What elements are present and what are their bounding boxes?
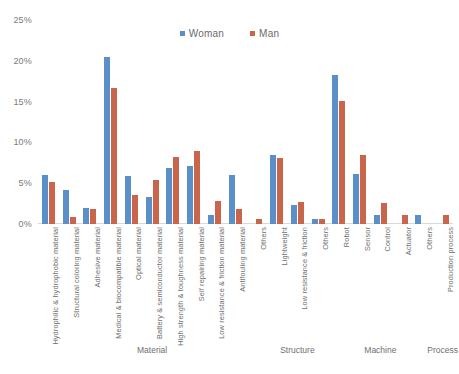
- x-axis-category-label: Self repairing material: [197, 227, 206, 301]
- bar-group: [349, 20, 370, 224]
- x-axis-category-label: Sensor: [363, 227, 372, 251]
- x-axis-group-label: Process: [427, 345, 458, 355]
- x-axis-category-label: Hydrophilic & hydrophobic material: [51, 227, 60, 345]
- bar-man[interactable]: [194, 151, 200, 224]
- x-axis-category-label: Others: [259, 227, 268, 250]
- x-axis-category-label: Medical & biocompatible material: [114, 227, 123, 339]
- plot-area: [38, 20, 453, 224]
- bar-man[interactable]: [277, 158, 283, 224]
- bar-man[interactable]: [173, 157, 179, 224]
- x-axis-category-labels: Hydrophilic & hydrophobic materialStruct…: [38, 227, 453, 339]
- plot-area-wrapper: [38, 20, 453, 224]
- x-axis-group-labels: MaterialStructureMachineProcess: [38, 345, 453, 361]
- x-axis-category-label: Others: [425, 227, 434, 250]
- bar-woman[interactable]: [415, 215, 421, 224]
- bar-man[interactable]: [132, 195, 138, 224]
- bar-woman[interactable]: [166, 168, 172, 224]
- bar-man[interactable]: [215, 201, 221, 224]
- bar-man[interactable]: [319, 219, 325, 224]
- x-axis-category-label: Structural coloring material: [72, 227, 81, 318]
- bar-group: [246, 20, 267, 224]
- x-axis-category-label: Production process: [446, 227, 455, 292]
- x-axis-category-label: Lightweight: [280, 227, 289, 266]
- bar-group: [225, 20, 246, 224]
- x-axis-category-label: Others: [321, 227, 330, 250]
- y-axis-tick-label: 15%: [13, 97, 32, 107]
- bar-group: [183, 20, 204, 224]
- x-axis-category-label: Robot: [342, 227, 351, 247]
- y-axis-tick-label: 10%: [13, 137, 32, 147]
- bar-group: [38, 20, 59, 224]
- bar-man[interactable]: [90, 209, 96, 224]
- bar-group: [370, 20, 391, 224]
- y-axis-tick-label: 5%: [19, 178, 32, 188]
- x-axis-group-label: Machine: [364, 345, 396, 355]
- bar-woman[interactable]: [332, 75, 338, 224]
- bar-man[interactable]: [236, 209, 242, 224]
- bar-group: [204, 20, 225, 224]
- bar-woman[interactable]: [208, 215, 214, 224]
- bar-group: [412, 20, 433, 224]
- bar-man[interactable]: [443, 215, 449, 224]
- bar-man[interactable]: [402, 215, 408, 224]
- bar-group: [287, 20, 308, 224]
- x-axis-category-label: Optical material: [134, 227, 143, 280]
- bar-woman[interactable]: [63, 190, 69, 224]
- bar-man[interactable]: [111, 88, 117, 224]
- x-axis-group-label: Material: [137, 345, 167, 355]
- bar-man[interactable]: [298, 202, 304, 224]
- bar-man[interactable]: [360, 155, 366, 224]
- x-axis-category-label: Battery & semiconductor material: [155, 227, 164, 339]
- x-axis-category-label: High strength & toughness material: [176, 227, 185, 346]
- bar-woman[interactable]: [312, 219, 318, 224]
- bar-group: [121, 20, 142, 224]
- bar-woman[interactable]: [229, 175, 235, 224]
- y-axis-tick-label: 20%: [13, 56, 32, 66]
- y-axis: 0%5%10%15%20%25%: [0, 20, 36, 224]
- bar-chart: WomanMan 0%5%10%15%20%25% Hydrophilic & …: [0, 0, 459, 374]
- bar-man[interactable]: [153, 180, 159, 224]
- bar-group: [266, 20, 287, 224]
- bar-man[interactable]: [339, 101, 345, 224]
- bar-group: [432, 20, 453, 224]
- x-axis-category-label: Adhesive material: [93, 227, 102, 287]
- x-axis-category-label: Low resistance & friction material: [217, 227, 226, 339]
- bar-group: [391, 20, 412, 224]
- x-axis-category-label: Antifouling material: [238, 227, 247, 292]
- bar-group: [142, 20, 163, 224]
- bar-woman[interactable]: [270, 155, 276, 224]
- bar-woman[interactable]: [187, 166, 193, 224]
- bar-woman[interactable]: [374, 215, 380, 224]
- x-axis-category-label: Low resistance & friction: [300, 227, 309, 310]
- bar-group: [59, 20, 80, 224]
- y-axis-tick-label: 0%: [19, 219, 32, 229]
- bar-woman[interactable]: [125, 176, 131, 224]
- bar-group: [329, 20, 350, 224]
- x-axis-category-label: Actuator: [404, 227, 413, 255]
- bar-group: [80, 20, 101, 224]
- bar-man[interactable]: [256, 219, 262, 224]
- bar-woman[interactable]: [42, 175, 48, 224]
- bar-group: [163, 20, 184, 224]
- x-axis-category-label: Control: [383, 227, 392, 252]
- bar-group: [100, 20, 121, 224]
- bar-group: [308, 20, 329, 224]
- bar-woman[interactable]: [104, 57, 110, 224]
- bar-man[interactable]: [70, 217, 76, 224]
- bar-man[interactable]: [381, 203, 387, 224]
- bar-woman[interactable]: [146, 197, 152, 224]
- x-axis-group-label: Structure: [280, 345, 315, 355]
- y-axis-tick-label: 25%: [13, 15, 32, 25]
- bar-woman[interactable]: [291, 205, 297, 224]
- bar-woman[interactable]: [353, 174, 359, 224]
- bar-woman[interactable]: [83, 208, 89, 224]
- bar-man[interactable]: [49, 182, 55, 224]
